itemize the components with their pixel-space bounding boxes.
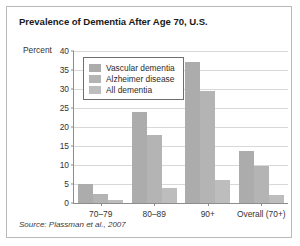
bar xyxy=(254,166,269,203)
y-tick-label: 40 xyxy=(60,46,69,56)
gridline xyxy=(74,203,288,204)
chart-title: Prevalence of Dementia After Age 70, U.S… xyxy=(19,16,208,27)
bar-group: 90+ xyxy=(181,51,235,203)
bar xyxy=(162,188,177,203)
legend-item[interactable]: All dementia xyxy=(89,84,175,95)
y-axis-title: Percent xyxy=(23,45,52,55)
legend-swatch-icon xyxy=(89,64,101,72)
x-tick-mark xyxy=(101,203,102,206)
bar xyxy=(108,200,123,203)
legend-swatch-icon xyxy=(89,75,101,83)
y-tick-label: 25 xyxy=(60,103,69,113)
figure-panel: Prevalence of Dementia After Age 70, U.S… xyxy=(6,6,292,238)
bar xyxy=(78,184,93,203)
bar xyxy=(239,151,254,203)
y-tick-label: 20 xyxy=(60,122,69,132)
y-tick-label: 0 xyxy=(64,198,69,208)
y-tick-label: 30 xyxy=(60,84,69,94)
y-tick-label: 5 xyxy=(64,179,69,189)
legend-item[interactable]: Alzheimer disease xyxy=(89,73,175,84)
bar xyxy=(185,62,200,203)
bar xyxy=(147,135,162,203)
bar xyxy=(132,112,147,203)
bar xyxy=(215,180,230,203)
legend-label: All dementia xyxy=(106,85,152,95)
bar xyxy=(93,194,108,203)
x-tick-label: 70–79 xyxy=(89,209,112,219)
y-tick-label: 15 xyxy=(60,141,69,151)
y-tick-label: 10 xyxy=(60,160,69,170)
bar xyxy=(200,91,215,203)
legend-swatch-icon xyxy=(89,86,101,94)
x-tick-label: Overall (70+) xyxy=(237,209,286,219)
legend-item[interactable]: Vascular dementia xyxy=(89,62,175,73)
y-tick-label: 35 xyxy=(60,65,69,75)
bar xyxy=(269,195,284,203)
x-tick-mark xyxy=(154,203,155,206)
source-note: Source: Plassman et al., 2007 xyxy=(19,220,126,229)
x-tick-mark xyxy=(261,203,262,206)
x-tick-mark xyxy=(208,203,209,206)
bar-group: Overall (70+) xyxy=(235,51,289,203)
x-tick-label: 80–89 xyxy=(143,209,166,219)
legend-label: Alzheimer disease xyxy=(106,74,174,84)
plot-area: 0510152025303540 70–7980–8990+Overall (7… xyxy=(73,51,288,204)
chart-legend: Vascular dementiaAlzheimer diseaseAll de… xyxy=(83,57,184,100)
legend-label: Vascular dementia xyxy=(106,63,175,73)
x-tick-label: 90+ xyxy=(201,209,215,219)
